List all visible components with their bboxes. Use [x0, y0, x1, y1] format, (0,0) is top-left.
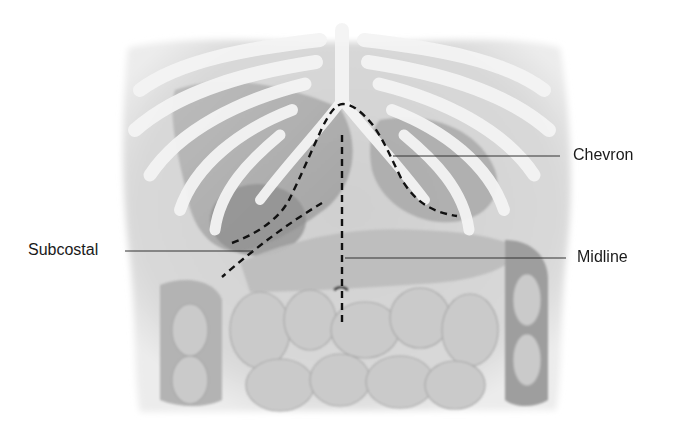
chevron-label: Chevron: [573, 147, 633, 163]
abdominal-incision-diagram: [0, 0, 686, 446]
subcostal-label: Subcostal: [28, 242, 98, 258]
midline-label: Midline: [577, 249, 628, 265]
